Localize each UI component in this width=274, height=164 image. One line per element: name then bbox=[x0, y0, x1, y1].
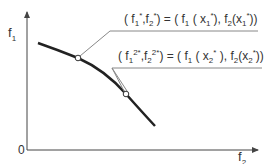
origin-label: 0 bbox=[18, 144, 25, 156]
leader-line-2 bbox=[112, 68, 262, 91]
y-axis-label: f1 bbox=[8, 26, 16, 39]
point-2-marker bbox=[123, 91, 129, 97]
x-axis-label: f2 bbox=[238, 150, 246, 163]
point-2-label: ( f12*,f22*) = ( f1 ( x2* ), f2(x2*)) bbox=[118, 50, 264, 62]
point-1-label: ( f1*,f2*) = ( f1 ( x1*), f2(x1*)) bbox=[124, 13, 258, 25]
point-1-marker bbox=[75, 55, 81, 61]
